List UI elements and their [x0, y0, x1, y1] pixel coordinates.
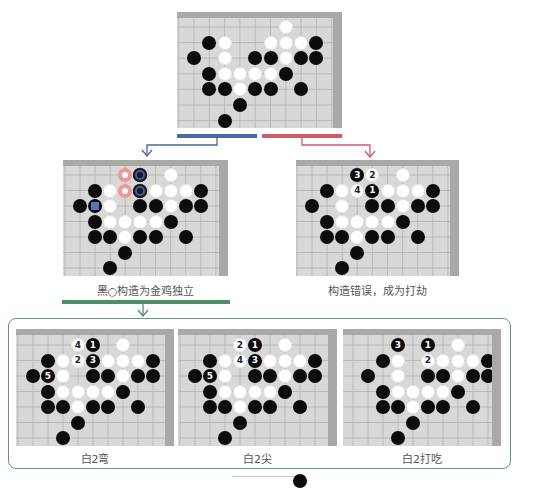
white-stone — [466, 354, 480, 368]
black-stone — [436, 369, 450, 383]
white-stone — [396, 184, 410, 198]
black-stone — [248, 400, 262, 414]
black-stone — [305, 199, 319, 213]
black-stone — [149, 199, 163, 213]
black-stone: 3 — [248, 354, 262, 368]
white-stone: 2 — [421, 354, 435, 368]
white-stone — [103, 184, 117, 198]
white-stone — [233, 67, 247, 81]
white-stone — [264, 36, 278, 50]
black-stone — [320, 230, 334, 244]
black-stone — [233, 416, 247, 430]
black-stone — [179, 230, 193, 244]
black-stone — [146, 354, 160, 368]
black-stone — [88, 199, 102, 213]
white-stone — [391, 385, 405, 399]
white-stone — [264, 67, 278, 81]
black-stone — [41, 385, 55, 399]
white-stone — [365, 215, 379, 229]
black-stone: 1 — [248, 338, 262, 352]
white-stone: 2 — [71, 354, 85, 368]
white-stone — [248, 385, 262, 399]
white-stone: 4 — [71, 338, 85, 352]
white-stone — [335, 184, 349, 198]
black-stone — [391, 400, 405, 414]
white-stone — [294, 36, 308, 50]
black-stone — [194, 199, 208, 213]
white-stone — [116, 369, 130, 383]
black-stone — [133, 184, 147, 198]
black-stone — [218, 114, 232, 128]
black-stone — [86, 400, 100, 414]
white-stone — [118, 215, 132, 229]
black-stone — [426, 184, 440, 198]
white-stone — [56, 385, 70, 399]
black-stone — [293, 400, 307, 414]
black-stone — [381, 199, 395, 213]
black-stone — [203, 400, 217, 414]
white-stone — [103, 215, 117, 229]
white-stone — [293, 354, 307, 368]
black-stone: 3 — [391, 338, 405, 352]
black-stone — [264, 82, 278, 96]
black-stone — [263, 369, 277, 383]
black-stone — [481, 354, 495, 368]
black-stone — [131, 400, 145, 414]
black-stone: 3 — [86, 354, 100, 368]
black-stone — [421, 369, 435, 383]
black-stone — [411, 230, 425, 244]
white-stone — [218, 354, 232, 368]
white-stone — [279, 20, 293, 34]
white-stone — [396, 199, 410, 213]
white-stone — [335, 215, 349, 229]
caption-white-bend: 白2弯 — [16, 450, 174, 466]
white-stone — [86, 385, 100, 399]
white-stone: 2 — [233, 338, 247, 352]
red-arrow-connector — [295, 136, 385, 160]
black-stone — [411, 199, 425, 213]
black-stone — [466, 400, 480, 414]
white-stone — [451, 354, 465, 368]
black-stone — [164, 215, 178, 229]
white-stone — [279, 36, 293, 50]
white-stone: 4 — [350, 184, 364, 198]
white-stone — [263, 385, 277, 399]
black-stone — [218, 431, 232, 445]
black-stone — [146, 369, 160, 383]
black-stone — [194, 184, 208, 198]
black-stone — [320, 215, 334, 229]
go-board-initial — [177, 12, 342, 128]
white-stone — [71, 385, 85, 399]
black-stone — [88, 215, 102, 229]
white-stone — [406, 400, 420, 414]
red-circle-marker — [118, 184, 132, 198]
black-stone — [426, 199, 440, 213]
white-stone — [278, 369, 292, 383]
black-stone — [179, 199, 193, 213]
black-stone — [71, 416, 85, 430]
white-stone — [233, 400, 247, 414]
white-stone — [278, 354, 292, 368]
white-stone — [436, 354, 450, 368]
white-stone — [218, 385, 232, 399]
white-stone: 4 — [233, 354, 247, 368]
black-stone-partial — [293, 474, 307, 488]
white-stone — [248, 67, 262, 81]
caption-white-diagonal: 白2尖 — [178, 450, 337, 466]
white-stone — [451, 369, 465, 383]
black-stone — [248, 369, 262, 383]
white-stone — [149, 184, 163, 198]
white-stone — [164, 199, 178, 213]
black-stone — [41, 400, 55, 414]
black-stone — [279, 67, 293, 81]
black-stone — [309, 36, 323, 50]
black-stone — [436, 400, 450, 414]
go-board-correct-shape — [63, 160, 228, 276]
white-stone — [71, 400, 85, 414]
white-stone — [218, 67, 232, 81]
black-stone — [218, 400, 232, 414]
black-stone — [202, 67, 216, 81]
white-stone — [350, 215, 364, 229]
black-stone — [41, 354, 55, 368]
white-stone — [149, 215, 163, 229]
